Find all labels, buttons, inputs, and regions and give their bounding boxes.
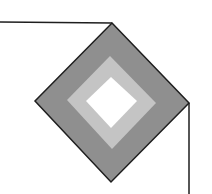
nested-diamond-diagram [0, 0, 212, 194]
top-connector-line [0, 22, 112, 23]
